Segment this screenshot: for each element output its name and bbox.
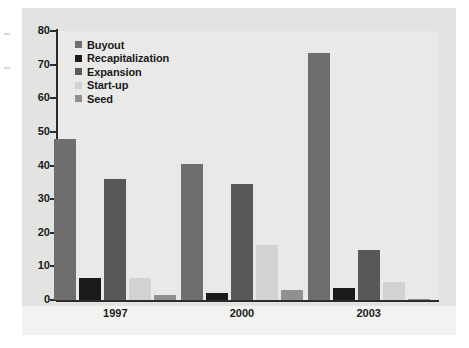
y-axis-tick-labels: 01020304050607080 [16, 0, 50, 348]
bar-buyout-2000[interactable] [181, 164, 203, 300]
y-axis-tick-label: 80 [20, 25, 50, 36]
bar-seed-2003[interactable] [408, 299, 430, 300]
bar-group-1997 [54, 31, 176, 300]
bar-seed-2000[interactable] [281, 290, 303, 300]
edge-mark [4, 33, 10, 35]
y-axis-tick-label: 60 [20, 92, 50, 103]
x-axis-label-2003: 2003 [288, 307, 450, 319]
bar-group-2000 [181, 31, 303, 300]
bar-expansion-2003[interactable] [358, 250, 380, 300]
bar-seed-1997[interactable] [154, 295, 176, 300]
y-axis-tick-label: 20 [20, 227, 50, 238]
bar-buyout-2003[interactable] [308, 53, 330, 300]
y-axis-tick-label: 40 [20, 160, 50, 171]
bar-recapitalization-2000[interactable] [206, 293, 228, 300]
y-axis-tick-label: 50 [20, 126, 50, 137]
bar-expansion-2000[interactable] [231, 184, 253, 300]
chart-screenshot: 01020304050607080 BuyoutRecapitalization… [0, 0, 469, 348]
edge-mark [4, 67, 10, 69]
bar-group-2003 [308, 31, 430, 300]
bar-start-up-2000[interactable] [256, 245, 278, 300]
bar-start-up-1997[interactable] [129, 278, 151, 300]
y-axis-tick-label: 30 [20, 193, 50, 204]
y-axis-tick-label: 0 [20, 294, 50, 305]
bar-expansion-1997[interactable] [104, 179, 126, 300]
y-axis-tick-label: 10 [20, 260, 50, 271]
bar-start-up-2003[interactable] [383, 282, 405, 300]
x-axis-line [56, 300, 439, 302]
bar-recapitalization-2003[interactable] [333, 288, 355, 300]
bar-recapitalization-1997[interactable] [79, 278, 101, 300]
bar-buyout-1997[interactable] [54, 139, 76, 300]
y-axis-tick-label: 70 [20, 59, 50, 70]
